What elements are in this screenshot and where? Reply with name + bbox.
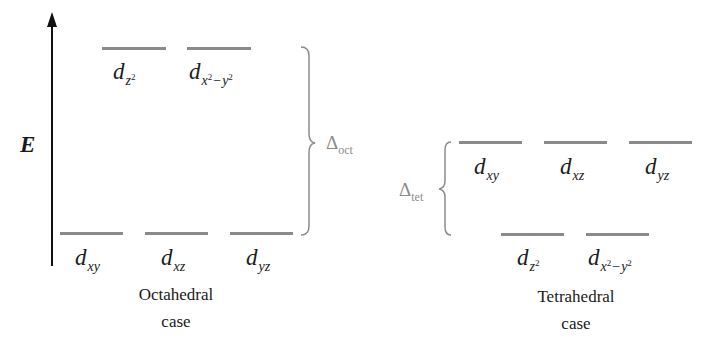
oct-t2g-level-3 [230,232,293,235]
delta-oct-label: Δoct [326,133,353,152]
tet-orbital-dxz: dxz [560,155,584,178]
oct-orbital-dyz: dyz [246,246,270,269]
oct-orbital-dxy: dxy [75,246,100,269]
tet-orbital-dxy: dxy [474,155,499,178]
orbital-symbol: d [189,59,201,84]
oct-t2g-level-2 [145,232,208,235]
tet-orbital-dyz: dyz [645,155,669,178]
orbital-symbol: d [113,59,125,84]
tet-orbital-dx2-y2: dx2−y2 [588,246,632,269]
oct-orbital-dx2-y2: dx2−y2 [189,60,233,83]
energy-axis [47,12,57,266]
oct-eg-level-2 [187,47,251,50]
orbital-subscript: z2 [126,73,136,88]
delta-tet-label: Δtet [399,180,423,199]
tetrahedral-caption: Tetrahedral case [506,283,646,337]
tet-orbital-dz2: dz2 [517,246,539,269]
tet-t2-level-3 [629,141,692,144]
tet-e-level-1 [501,233,564,236]
oct-orbital-dz2: dz2 [113,60,135,83]
octahedral-caption: Octahedral case [106,281,246,335]
arrow-up-icon [47,12,57,27]
tet-e-level-2 [586,233,649,236]
oct-t2g-level-1 [60,232,123,235]
delta-oct-brace [301,47,315,235]
tet-t2-level-2 [544,141,607,144]
tet-t2-level-1 [459,141,522,144]
delta-tet-brace [439,142,451,235]
orbital-subscript: x2−y2 [202,73,233,88]
oct-orbital-dxz: dxz [161,246,185,269]
oct-eg-level-1 [102,47,166,50]
energy-axis-label: E [20,133,35,156]
